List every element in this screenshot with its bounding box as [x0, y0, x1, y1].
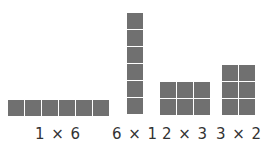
label-2x3: 2 × 3: [160, 125, 210, 143]
unit-square: [194, 82, 210, 98]
array-1x6: [8, 100, 109, 116]
array-6x1: [127, 13, 143, 114]
unit-square: [76, 100, 92, 116]
unit-square: [59, 100, 75, 116]
unit-square: [194, 99, 210, 115]
unit-square: [127, 13, 143, 29]
label-6x1: 6 × 1: [110, 125, 160, 143]
unit-square: [127, 98, 143, 114]
unit-square: [127, 47, 143, 63]
array-2x3: [160, 82, 210, 115]
unit-square: [8, 100, 24, 116]
unit-square: [42, 100, 58, 116]
label-1x6: 1 × 6: [33, 125, 83, 143]
unit-square: [177, 99, 193, 115]
unit-square: [160, 82, 176, 98]
array-3x2: [222, 65, 255, 115]
unit-square: [239, 82, 255, 98]
unit-square: [239, 65, 255, 81]
unit-square: [222, 99, 238, 115]
unit-square: [222, 65, 238, 81]
unit-square: [93, 100, 109, 116]
unit-square: [25, 100, 41, 116]
unit-square: [222, 82, 238, 98]
unit-square: [127, 64, 143, 80]
label-3x2: 3 × 2: [214, 125, 264, 143]
unit-square: [127, 81, 143, 97]
unit-square: [160, 99, 176, 115]
unit-square: [127, 30, 143, 46]
unit-square: [239, 99, 255, 115]
unit-square: [177, 82, 193, 98]
